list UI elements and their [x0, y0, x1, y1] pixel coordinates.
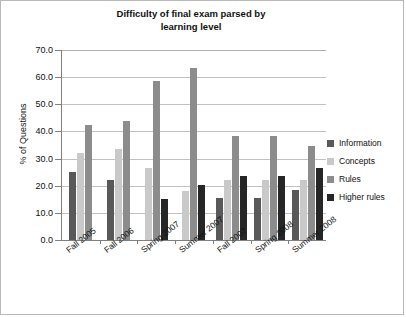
- y-axis-tick: [55, 240, 61, 241]
- y-axis-tick: [55, 131, 61, 132]
- bar-group: [62, 50, 100, 240]
- legend-item: Information: [327, 134, 385, 152]
- bar: [232, 136, 239, 241]
- y-axis-tick: [55, 50, 61, 51]
- bar: [270, 136, 277, 241]
- legend-swatch-icon: [327, 140, 334, 147]
- y-axis-tick-label: 0.0: [40, 235, 53, 245]
- x-axis-tick: [288, 240, 289, 244]
- bar: [224, 180, 231, 240]
- bar-group: [175, 50, 213, 240]
- y-axis-tick: [55, 77, 61, 78]
- bar: [254, 198, 261, 240]
- y-axis-tick-label: 20.0: [35, 181, 53, 191]
- legend-item: Higher rules: [327, 188, 385, 206]
- y-axis-title: % of Questions: [18, 94, 28, 174]
- y-axis-tick-label: 40.0: [35, 126, 53, 136]
- bar-groups: [62, 50, 326, 240]
- y-axis-tick: [55, 159, 61, 160]
- bar: [292, 190, 299, 240]
- chart-title-line-2: learning level: [61, 20, 321, 33]
- bar-group: [100, 50, 138, 240]
- bar: [85, 125, 92, 240]
- legend-item: Rules: [327, 170, 385, 188]
- bar: [77, 153, 84, 240]
- bar: [308, 146, 315, 240]
- chart-legend: InformationConceptsRulesHigher rules: [327, 134, 385, 206]
- chart-title-line-1: Difficulty of final exam parsed by: [61, 7, 321, 20]
- bar: [69, 172, 76, 240]
- y-axis-tick: [55, 104, 61, 105]
- x-axis-tick: [137, 240, 138, 244]
- x-axis-tick: [175, 240, 176, 244]
- legend-label: Concepts: [339, 156, 375, 166]
- bar: [300, 180, 307, 240]
- bar: [153, 81, 160, 240]
- bar-group: [288, 50, 326, 240]
- legend-swatch-icon: [327, 158, 334, 165]
- x-axis-tick: [213, 240, 214, 244]
- x-axis-tick: [100, 240, 101, 244]
- y-axis-tick-label: 50.0: [35, 99, 53, 109]
- y-axis-tick-label: 10.0: [35, 208, 53, 218]
- bar: [123, 121, 130, 240]
- plot-area: 0.010.020.030.040.050.060.070.0 Fall 200…: [61, 50, 326, 241]
- chart-container: Difficulty of final exam parsed by learn…: [0, 0, 404, 315]
- y-axis-tick-label: 30.0: [35, 154, 53, 164]
- x-axis-tick: [251, 240, 252, 244]
- legend-swatch-icon: [327, 194, 334, 201]
- y-axis-tick: [55, 186, 61, 187]
- y-axis-tick: [55, 213, 61, 214]
- bar-group: [251, 50, 289, 240]
- legend-label: Higher rules: [339, 192, 385, 202]
- y-axis-tick-label: 70.0: [35, 45, 53, 55]
- legend-item: Concepts: [327, 152, 385, 170]
- bar: [145, 168, 152, 240]
- legend-swatch-icon: [327, 176, 334, 183]
- bar: [262, 180, 269, 240]
- bar: [107, 180, 114, 240]
- bar-group: [137, 50, 175, 240]
- bar: [115, 149, 122, 240]
- bar: [190, 68, 197, 240]
- bar-group: [213, 50, 251, 240]
- chart-title: Difficulty of final exam parsed by learn…: [61, 7, 321, 33]
- y-axis-tick-label: 60.0: [35, 72, 53, 82]
- legend-label: Information: [339, 138, 382, 148]
- legend-label: Rules: [339, 174, 361, 184]
- bar: [182, 191, 189, 240]
